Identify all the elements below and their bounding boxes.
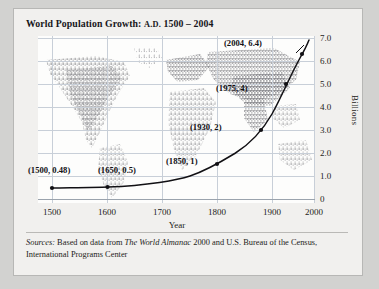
data-point-1930 (259, 128, 263, 132)
annotation-1500: (1500, 0.48) (28, 165, 70, 175)
data-point-1500 (50, 186, 54, 190)
xtick-1500: 1500 (32, 207, 72, 217)
source-publication-title: The World Almanac (125, 238, 192, 247)
ytick-3: 3.0 (320, 125, 344, 135)
data-point-1975 (284, 82, 288, 86)
chart-plot-area (38, 36, 315, 203)
annotation-1975: (1975, 4) (216, 83, 248, 93)
data-point-2004 (300, 52, 304, 56)
source-note: Sources: Based on data from The World Al… (26, 237, 346, 260)
data-point-1850 (215, 162, 219, 166)
xtick-1700: 1700 (142, 207, 182, 217)
data-point-1650 (105, 185, 109, 189)
ytick-5: 5.0 (320, 79, 344, 89)
page-title: World Population Growth: A.D. 1500 – 200… (26, 18, 346, 29)
xtick-1900: 1900 (252, 207, 292, 217)
xtick-1600: 1600 (87, 207, 127, 217)
figure-card: World Population Growth: A.D. 1500 – 200… (14, 9, 362, 275)
ytick-6: 6.0 (320, 56, 344, 66)
annotation-2004: (2004, 6.4) (224, 38, 262, 48)
ytick-1: 1.0 (320, 171, 344, 181)
figure-frame: World Population Growth: A.D. 1500 – 200… (0, 0, 379, 289)
title-era-text: A.D. (144, 20, 161, 29)
population-growth-curve (38, 36, 315, 203)
ytick-4: 4.0 (320, 102, 344, 112)
source-prefix: Sources: (26, 238, 55, 247)
ytick-7: 7.0 (320, 33, 344, 43)
y-axis-label: Billions (350, 95, 360, 125)
source-text-leading: Based on data from (55, 238, 125, 247)
title-main-text: World Population Growth: (26, 18, 141, 29)
annotation-1650: (1650, 0.5) (98, 165, 136, 175)
xtick-2000: 2000 (294, 207, 334, 217)
annotation-1930: (1930, 2) (190, 122, 222, 132)
xtick-1800: 1800 (197, 207, 237, 217)
source-divider (26, 232, 348, 233)
annotation-1850: (1850, 1) (166, 156, 198, 166)
ytick-2: 2.0 (320, 148, 344, 158)
x-axis-label: Year (14, 220, 340, 230)
title-range-text: 1500 – 2004 (164, 18, 214, 29)
ytick-0: 0 (320, 194, 344, 204)
